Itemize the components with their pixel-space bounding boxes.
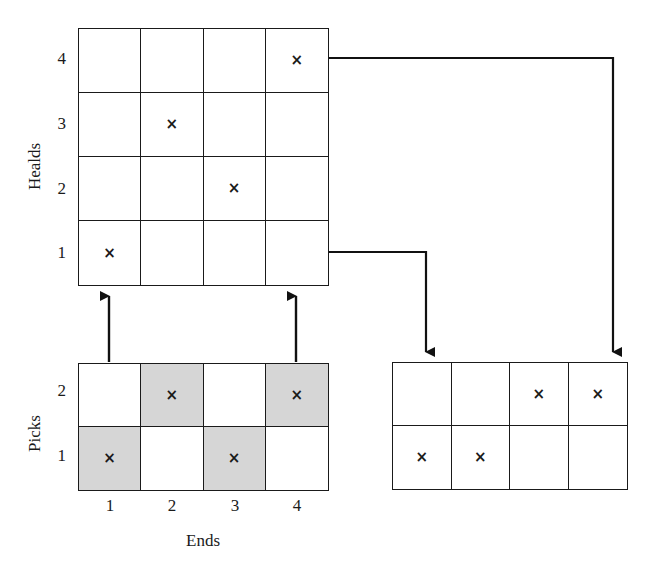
drafting-cell-r3c1[interactable] xyxy=(79,93,141,157)
drafting-cell-r2c1[interactable] xyxy=(79,157,141,221)
drafting-cell-r3c2[interactable]: × xyxy=(141,93,203,157)
drafting-cell-r2c3[interactable]: × xyxy=(204,157,266,221)
weave-plan-grid[interactable]: × × × × xyxy=(78,363,329,491)
picks-tick-1: 1 xyxy=(42,447,66,464)
weaving-draft-diagram: × × × × 4 3 2 1 Healds × × × × 2 1 Pi xyxy=(0,0,664,563)
picks-tick-2: 2 xyxy=(42,382,66,399)
ends-tick-3: 3 xyxy=(204,497,266,514)
drafting-plan-grid[interactable]: × × × × xyxy=(78,28,329,286)
lifting-plan-grid[interactable]: × × × × xyxy=(392,362,628,490)
drafting-cell-r1c2[interactable] xyxy=(141,221,203,285)
drafting-cell-r4c2[interactable] xyxy=(141,29,203,93)
weave-cell-r2c4[interactable]: × xyxy=(266,364,328,427)
lifting-cell-r1c4[interactable] xyxy=(569,426,628,489)
weave-cell-r1c3[interactable]: × xyxy=(204,427,266,490)
ends-tick-2: 2 xyxy=(141,497,203,514)
drafting-cell-r2c2[interactable] xyxy=(141,157,203,221)
weave-cell-r1c4[interactable] xyxy=(266,427,328,490)
lifting-cell-r1c1[interactable]: × xyxy=(393,426,452,489)
drafting-cell-r3c3[interactable] xyxy=(204,93,266,157)
drafting-cell-r4c1[interactable] xyxy=(79,29,141,93)
weave-cell-r2c3[interactable] xyxy=(204,364,266,427)
lifting-cell-r1c3[interactable] xyxy=(510,426,569,489)
drafting-cell-r1c4[interactable] xyxy=(266,221,328,285)
lifting-cell-r2c1[interactable] xyxy=(393,363,452,426)
drafting-cell-r4c4[interactable]: × xyxy=(266,29,328,93)
lifting-cell-r2c2[interactable] xyxy=(452,363,511,426)
ends-tick-4: 4 xyxy=(266,497,328,514)
drafting-cell-r2c4[interactable] xyxy=(266,157,328,221)
axis-title-ends: Ends xyxy=(128,532,278,549)
drafting-cell-r4c3[interactable] xyxy=(204,29,266,93)
axis-title-picks: Picks xyxy=(26,415,43,452)
connector-heald4-to-lifting-col4 xyxy=(329,58,613,352)
ends-tick-1: 1 xyxy=(79,497,141,514)
drafting-cell-r1c3[interactable] xyxy=(204,221,266,285)
healds-tick-4: 4 xyxy=(42,50,66,67)
healds-tick-1: 1 xyxy=(42,244,66,261)
drafting-cell-r1c1[interactable]: × xyxy=(79,221,141,285)
weave-cell-r2c2[interactable]: × xyxy=(141,364,203,427)
lifting-cell-r2c3[interactable]: × xyxy=(510,363,569,426)
weave-cell-r2c1[interactable] xyxy=(79,364,141,427)
lifting-cell-r1c2[interactable]: × xyxy=(452,426,511,489)
lifting-cell-r2c4[interactable]: × xyxy=(569,363,628,426)
healds-tick-2: 2 xyxy=(42,180,66,197)
healds-tick-3: 3 xyxy=(42,115,66,132)
axis-title-healds: Healds xyxy=(26,143,43,190)
weave-cell-r1c1[interactable]: × xyxy=(79,427,141,490)
connector-heald1-to-lifting-col1 xyxy=(329,252,426,352)
drafting-cell-r3c4[interactable] xyxy=(266,93,328,157)
weave-cell-r1c2[interactable] xyxy=(141,427,203,490)
